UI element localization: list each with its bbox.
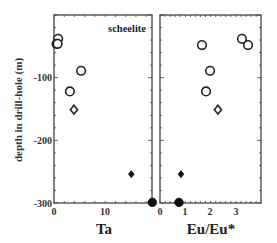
y-tick-label: -100 [34,72,52,83]
open-circle-marker [53,40,62,49]
x-tick-label: 0 [52,206,57,217]
filled-circle-marker [175,198,183,206]
y-tick-label: -300 [34,198,52,209]
x-tick-label: 2 [208,206,213,217]
open-diamond-marker [214,105,221,114]
x-axis-label-ta: Ta [96,221,113,237]
x-tick-label: 0 [158,206,163,217]
open-circle-marker [206,66,215,75]
open-circle-marker [202,87,211,96]
figure: depth in drill-hole (m) -100 -200 -300 s… [0,0,277,243]
panel-ta-frame [54,15,152,203]
mineral-annotation: scheelite [108,23,146,34]
panel-ta-points [52,35,156,207]
open-circle-marker [198,41,207,50]
panel-eu-points [175,35,253,207]
open-circle-marker [66,87,75,96]
y-axis-label: depth in drill-hole (m) [12,58,25,163]
panel-eu: 0 1 2 3 Eu/Eu* [158,15,262,237]
panel-ta: scheelite 0 10 Ta [52,15,157,237]
x-tick-label: 1 [183,206,188,217]
open-circle-marker [77,66,86,75]
y-tick-label: -200 [34,135,52,146]
x-axis-label-eu: Eu/Eu* [187,221,235,237]
open-circle-marker [244,41,253,50]
filled-circle-marker [148,198,156,206]
x-tick-label: 3 [234,206,239,217]
filled-diamond-marker [178,171,183,178]
open-diamond-marker [70,105,77,114]
filled-diamond-marker [129,171,134,178]
x-tick-label: 10 [100,206,110,217]
panel-ta-ticks [54,15,152,203]
